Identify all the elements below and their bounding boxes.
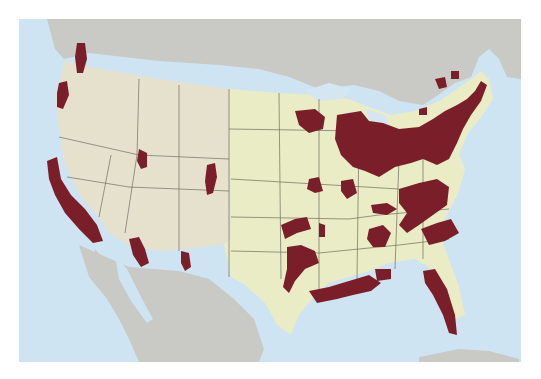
us-map	[19, 19, 521, 362]
region-alabama	[375, 269, 391, 281]
region-arkansas	[319, 223, 325, 237]
region-ottawa	[451, 71, 459, 79]
